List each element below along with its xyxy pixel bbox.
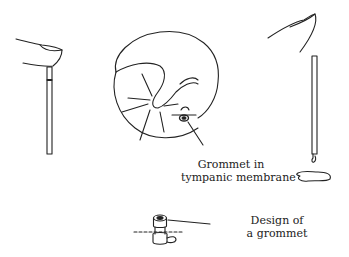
right-finger-straw <box>268 14 330 181</box>
tympanic-membrane <box>114 31 218 145</box>
label-grommet-line2: tympanic membrane <box>181 171 281 184</box>
label-grommet-line1: Grommet in <box>181 158 281 171</box>
label-design-line1: Design of <box>242 214 312 227</box>
label-design-line2: a grommet <box>242 227 312 240</box>
grommet-design <box>134 215 210 244</box>
label-grommet-in-tympanic-membrane: Grommet in tympanic membrane <box>181 158 281 184</box>
left-finger-straw <box>16 39 62 154</box>
grommet-illustration: Grommet in tympanic membrane Design of a… <box>0 0 349 257</box>
label-design-of-grommet: Design of a grommet <box>242 214 312 240</box>
